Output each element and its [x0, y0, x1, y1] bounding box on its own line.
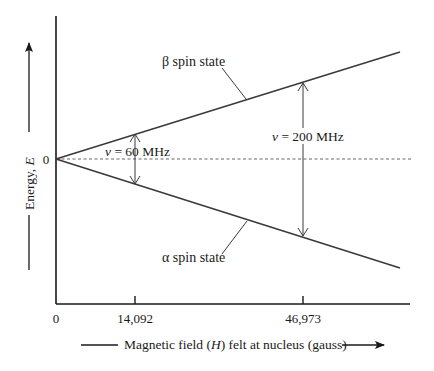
x-tick-label-14092: 14,092	[117, 311, 153, 326]
nmr-energy-diagram: 0 14,092 46,973 0 β spin state α spin st…	[0, 0, 434, 371]
alpha-spin-line	[56, 159, 400, 268]
nu-200-label: ν = 200 MHz	[272, 129, 344, 144]
alpha-spin-label: α spin state	[162, 250, 225, 265]
y-axis-label: Energy, E	[22, 156, 37, 210]
alpha-leader-line	[222, 221, 247, 254]
beta-leader-line	[222, 68, 246, 99]
x-tick-label-0: 0	[53, 311, 60, 326]
nu-60-label: ν = 60 MHz	[105, 144, 170, 159]
beta-spin-line	[56, 52, 400, 159]
nu-200-arrow	[298, 83, 308, 236]
beta-spin-label: β spin state	[162, 54, 225, 69]
nu-200-value: = 200 MHz	[278, 129, 344, 144]
x-tick-label-46973: 46,973	[285, 311, 321, 326]
nu-60-value: = 60 MHz	[111, 144, 170, 159]
x-axis-label: Magnetic field (H) felt at nucleus (gaus…	[124, 337, 347, 352]
y-tick-label-0: 0	[43, 152, 50, 167]
